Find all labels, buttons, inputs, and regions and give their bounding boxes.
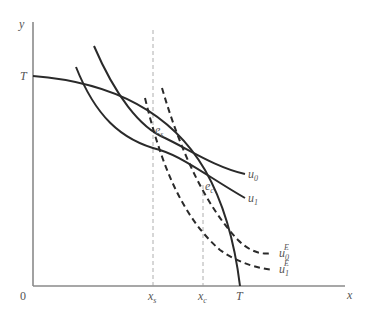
origin-label: 0	[20, 289, 26, 303]
u0-label: u0	[248, 167, 258, 183]
ec-point-label: ec	[205, 179, 214, 195]
es-point-label: es	[155, 123, 163, 139]
y-axis-label: y	[18, 17, 25, 31]
xs-label: xs	[147, 289, 156, 305]
indifference-curve-u0E	[162, 88, 272, 254]
x-axis-label: x	[346, 288, 353, 302]
diagram-canvas: y x 0 T T xs xc es ec u0 u1 u0E u1E	[0, 0, 372, 316]
y-intercept-label: T	[20, 69, 28, 83]
x-intercept-label: T	[236, 289, 244, 303]
xc-label: xc	[197, 289, 207, 305]
u1-label: u1	[248, 191, 258, 207]
u1E-label: u1E	[279, 259, 289, 278]
